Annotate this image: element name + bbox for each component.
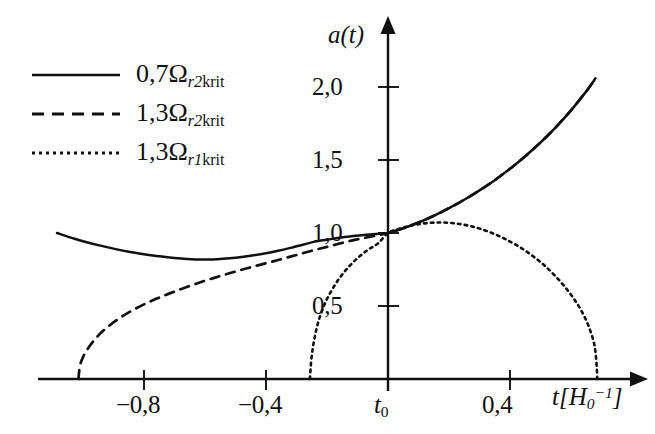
x-tick-label: 0,4 xyxy=(482,392,512,417)
y-axis xyxy=(381,16,396,391)
legend-subscript: r2krit xyxy=(188,111,225,128)
legend-label: 1,3Ωr1krit xyxy=(136,137,225,169)
legend-subscript: r2krit xyxy=(188,72,225,89)
x-tick-label: −0,4 xyxy=(238,392,282,417)
y-axis-title: a(t) xyxy=(328,22,364,47)
y-tick-label: 1,0 xyxy=(312,220,342,245)
x-axis-title: t[H0−1] xyxy=(552,384,622,412)
curve-dotted xyxy=(310,222,597,379)
x-tick-label: −0,8 xyxy=(116,392,160,417)
x-axis-arrowhead xyxy=(630,372,648,387)
y-axis-arrowhead xyxy=(381,16,396,34)
legend-line-sample-dotted xyxy=(30,146,122,160)
y-tick-label: 0,5 xyxy=(312,293,342,318)
legend-coefficient: 1,3 xyxy=(136,98,169,127)
omega-icon: Ω xyxy=(169,137,188,166)
omega-icon: Ω xyxy=(169,98,188,127)
legend-item-dotted: 1,3Ωr1krit xyxy=(30,133,300,172)
legend-item-solid: 0,7Ωr2krit xyxy=(30,55,300,94)
legend-item-dashed: 1,3Ωr2krit xyxy=(30,94,300,133)
y-tick-label: 1,5 xyxy=(312,147,342,172)
legend-coefficient: 0,7 xyxy=(136,59,169,88)
figure-cosmic-scale-factor: a(t) t[H0−1] −0,8−0,4t00,4 0,51,01,52,0 … xyxy=(0,0,655,434)
x-axis-title-base: t[H xyxy=(552,383,587,410)
legend-line-sample-solid xyxy=(30,68,122,82)
x-axis-title-close: ] xyxy=(613,383,623,410)
legend: 0,7Ωr2krit1,3Ωr2krit1,3Ωr1krit xyxy=(30,55,300,172)
legend-label: 0,7Ωr2krit xyxy=(136,59,225,91)
legend-label: 1,3Ωr2krit xyxy=(136,98,225,130)
legend-coefficient: 1,3 xyxy=(136,137,169,166)
x-tick-label: t0 xyxy=(374,392,388,420)
legend-subscript: r1krit xyxy=(188,150,225,167)
y-tick-label: 2,0 xyxy=(312,74,342,99)
x-axis-title-superscript: −1 xyxy=(594,384,612,401)
omega-icon: Ω xyxy=(169,59,188,88)
legend-line-sample-dashed xyxy=(30,107,122,121)
